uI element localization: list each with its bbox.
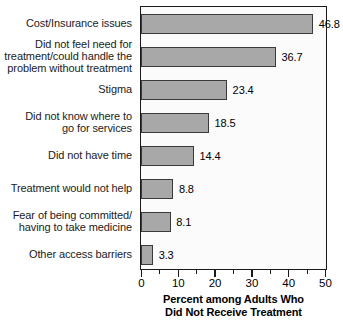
x-tick-label: 10 [172,277,185,289]
x-tick-label: 50 [319,277,332,289]
bar-value-label: 8.1 [176,216,191,228]
category-label: Did not have time [48,148,132,160]
bar-value-label: 8.8 [179,183,194,195]
x-tick-label: 0 [138,277,144,289]
x-axis-title: Percent among Adults Who Did Not Receive… [140,293,327,318]
x-tick-major [251,270,253,277]
bar [141,80,227,100]
bar-series: 46.836.723.418.514.48.88.13.3 [141,7,326,269]
category-axis-labels: Cost/Insurance issuesDid not feel need f… [0,6,136,270]
bar [141,113,209,133]
x-tick-minor [307,270,308,274]
bar-value-label: 36.7 [282,51,303,63]
bar [141,146,194,166]
bar-value-label: 18.5 [215,117,236,129]
bar-value-label: 3.3 [159,249,174,261]
category-label: Other access barriers [29,247,132,259]
x-tick-label: 40 [282,277,295,289]
x-tick-major [178,270,180,277]
x-tick-major [141,270,143,277]
x-tick-major [214,270,216,277]
x-tick-label: 30 [245,277,258,289]
category-label: Did not feel need for treatment/could ha… [4,37,132,74]
category-label: Fear of being committed/ having to take … [13,208,132,232]
plot-area: 46.836.723.418.514.48.88.13.3 [140,6,327,270]
category-label: Did not know where to go for services [25,109,132,133]
x-axis: 01020304050 [140,270,327,290]
category-label: Treatment would not help [11,181,132,193]
x-tick-minor [233,270,234,274]
category-label: Cost/Insurance issues [26,16,132,28]
bar [141,47,276,67]
bar [141,179,173,199]
bar [141,14,313,34]
bar [141,245,153,265]
bar-value-label: 14.4 [199,150,220,162]
x-tick-minor [270,270,271,274]
x-tick-label: 20 [209,277,222,289]
x-tick-major [288,270,290,277]
bar-chart: Cost/Insurance issuesDid not feel need f… [0,0,343,324]
bar-value-label: 23.4 [233,84,254,96]
category-label: Stigma [98,82,132,94]
x-tick-minor [159,270,160,274]
x-tick-major [325,270,327,277]
bar-value-label: 46.8 [319,18,340,30]
x-tick-minor [196,270,197,274]
bar [141,212,171,232]
